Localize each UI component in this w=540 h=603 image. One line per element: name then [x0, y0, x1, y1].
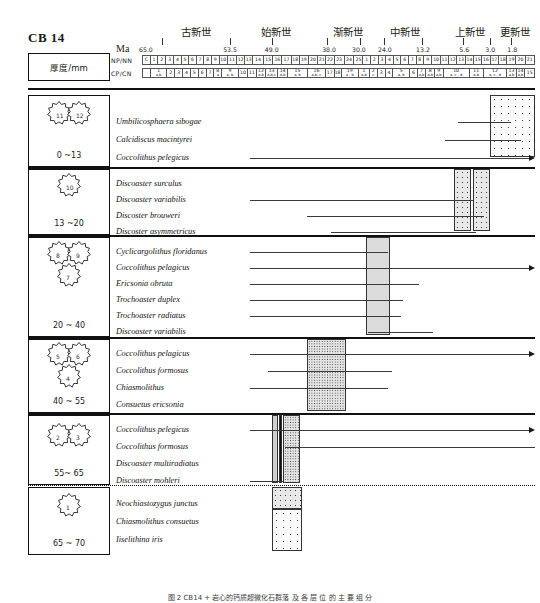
zone-cell: 2c	[369, 69, 377, 78]
epoch-tick	[384, 38, 385, 45]
species-name: Chiasmolithus consuetus	[116, 517, 199, 526]
ma-boundary-value: 13.2	[409, 46, 437, 53]
zone-cell: 24	[344, 56, 354, 65]
coccolith-star-number: 3	[76, 434, 80, 441]
species-name: Discoaster surculus	[116, 179, 182, 188]
zone-cell: 7a,b	[417, 69, 426, 78]
zone-cell: 15a, b	[288, 69, 308, 78]
species-name: Ericsonia obruta	[116, 279, 172, 288]
species-range-line	[250, 354, 529, 355]
species-range-line	[331, 232, 476, 233]
species-name: Trochoaster radiatus	[116, 311, 186, 320]
species-name: Discoster brouweri	[116, 211, 180, 220]
block-separator-dotted	[28, 485, 535, 486]
zone-cell: 11a,b	[469, 69, 483, 78]
np-nn-row-label: NP/NN	[111, 57, 132, 64]
ma-axis-label: Ma	[116, 43, 129, 54]
zone-cell: 8a	[214, 69, 222, 78]
species-name: Discoaster variabilis	[116, 195, 186, 204]
epoch-tick	[230, 38, 231, 45]
species-range-line	[250, 158, 529, 159]
species-range-line	[250, 481, 283, 482]
coccolith-star-number: 12	[76, 112, 84, 119]
species-name: Chiasmolithus	[116, 383, 164, 392]
header-bottom-rule	[28, 88, 535, 90]
zone-cell: 4	[386, 56, 394, 65]
zone-cell: 8a,b	[426, 69, 435, 78]
zone-cell: 13a,b,c	[266, 69, 278, 78]
coccolith-star-number: 2	[56, 434, 60, 441]
zone-cell: 12a,b	[256, 69, 265, 78]
lithology-pattern	[307, 339, 346, 411]
zone-cell: 8	[204, 56, 212, 65]
species-range-line	[458, 122, 511, 123]
zone-cell: 25	[354, 56, 363, 65]
coccolith-star-number: 9	[76, 252, 80, 259]
zone-cell: 13a,b	[507, 69, 516, 78]
species-range-line	[250, 268, 529, 269]
thickness-value: 20 ~ 40	[28, 321, 110, 330]
zone-cell: 1a,b	[358, 69, 369, 78]
zone-cell: 9a, b	[222, 69, 239, 78]
zone-cell: 11	[440, 56, 448, 65]
zone-cell: 17	[490, 56, 498, 65]
zone-cell: 14a,b	[278, 69, 288, 78]
zone-cell: 2	[371, 56, 379, 65]
species-name: Coccolithus pelegicus	[116, 425, 189, 434]
zone-cell: 15	[474, 56, 482, 65]
thickness-value: 0 ~13	[28, 151, 110, 160]
zone-cell: 17	[325, 69, 334, 78]
ma-boundary-value: 49.0	[258, 46, 286, 53]
ma-boundary-value: 1.8	[498, 46, 526, 53]
figure-caption: 图 2 CB14 + 岩心的钙质超微化石群落 及 各 层 位 的 主 要 组 分	[0, 592, 540, 602]
zone-cell: 7	[196, 56, 204, 65]
zone-cell: 14	[465, 56, 473, 65]
zone-cell: 21	[525, 56, 534, 65]
zone-cell: 6	[401, 56, 409, 65]
species-range-line	[250, 300, 403, 301]
species-range-line	[250, 430, 529, 431]
zone-cell: 9	[424, 56, 432, 65]
cp-cn-zone-table: 1a,b2345678a9a, b101112a,b13a,b,c14a,b15…	[142, 68, 535, 78]
zone-cell: 1	[150, 56, 158, 65]
zone-cell: 21	[318, 56, 326, 65]
species-name: Trochoaster duplex	[116, 295, 180, 304]
zone-cell: 3	[166, 56, 174, 65]
zone-cell: 19	[299, 56, 308, 65]
zone-cell: C	[143, 56, 151, 65]
epoch-tick	[272, 38, 273, 45]
species-name: Discoaster multiradiatus	[116, 459, 199, 468]
epoch-tick	[360, 38, 361, 45]
coccolith-star-number: 6	[76, 353, 80, 360]
block1-block2-dotted-rule	[110, 167, 535, 168]
zone-cell: 16	[273, 56, 282, 65]
epoch-label: 中新世	[375, 24, 435, 39]
lithology-pattern	[283, 415, 300, 483]
ma-boundary-value: 24.0	[371, 46, 399, 53]
epoch-tick	[327, 38, 328, 45]
zone-cell: 10	[219, 56, 227, 65]
zone-cell: 20	[516, 56, 525, 65]
thickness-value: 40 ~ 55	[28, 397, 110, 406]
lithology-pattern	[272, 509, 303, 551]
thickness-value: 55~ 65	[28, 469, 110, 478]
epoch-tick	[490, 38, 491, 45]
zone-cell: 6	[409, 69, 417, 78]
epoch-tick	[422, 38, 423, 45]
zone-cell: 1	[363, 56, 371, 65]
lithology-pattern	[473, 169, 490, 231]
zone-cell: 20	[308, 56, 317, 65]
thickness-value: 13 ~20	[28, 219, 110, 228]
coccolith-star-number: 8	[56, 252, 60, 259]
species-name: Umbilicosphaera sibogae	[116, 117, 202, 126]
range-arrow-icon	[529, 351, 535, 357]
zone-cell: 6	[189, 56, 197, 65]
epoch-label: 更新世	[485, 24, 540, 39]
zone-cell: 19	[507, 56, 516, 65]
zone-cell: 5a, b	[393, 69, 410, 78]
species-range-line	[368, 332, 433, 333]
zone-cell: 14a,b	[516, 69, 525, 78]
species-name: Coccolithus formosus	[116, 366, 188, 375]
zone-cell: 15	[525, 69, 535, 78]
zone-cell: 10	[238, 69, 247, 78]
